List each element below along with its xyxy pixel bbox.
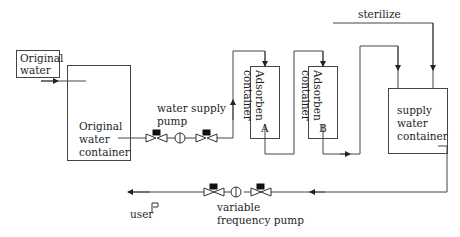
supply-container-label-1: supply (397, 104, 432, 116)
original-water-label-2: water (20, 64, 51, 76)
adsorben-b-line2: container (300, 70, 312, 121)
original-water-label-1: Original (20, 52, 63, 64)
original-container-label-1: Original (79, 120, 122, 132)
variable-pump-label-1: variable (217, 201, 260, 213)
user-label: user (130, 208, 153, 220)
supply-pump-assembly (146, 130, 217, 143)
adsorben-b-tag: B (319, 122, 327, 134)
adsorben-a-tag: A (261, 122, 269, 134)
sterilize-label: sterilize (358, 8, 401, 20)
water-supply-pump-label-2: pump (157, 115, 187, 127)
variable-pump-label-2: frequency pump (217, 214, 304, 226)
variable-pump-assembly (204, 184, 271, 197)
original-container-label-3: container (79, 146, 130, 158)
adsorben-a-line2-wrap: container (252, 70, 264, 121)
process-flow-diagram: Original water Original water container … (0, 0, 460, 237)
adsorben-a-line2: container (242, 70, 254, 121)
original-container-label-2: water (79, 133, 110, 145)
supply-container-label-3: container (397, 130, 448, 142)
supply-container-label-2: water (397, 117, 428, 129)
adsorben-b-line2-wrap: container (310, 70, 322, 121)
water-supply-pump-label-1: water supply (157, 102, 226, 114)
